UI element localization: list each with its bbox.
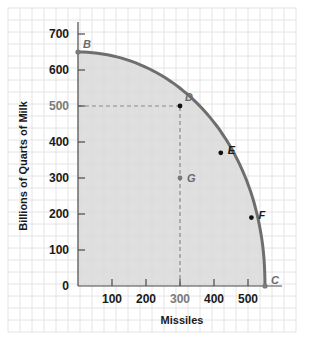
point-g-label: G bbox=[187, 172, 196, 184]
y-tick-label: 400 bbox=[49, 135, 69, 149]
point-b-label: B bbox=[83, 38, 91, 50]
point-c-label: C bbox=[271, 274, 280, 286]
feasible-region-fill bbox=[78, 52, 265, 286]
point-f-marker bbox=[249, 215, 254, 220]
x-tick-label: 500 bbox=[238, 292, 258, 306]
y-tick-label: 700 bbox=[49, 27, 69, 41]
point-f-label: F bbox=[258, 209, 265, 221]
x-tick-label: 300 bbox=[170, 292, 190, 306]
point-b-marker bbox=[75, 49, 80, 54]
y-tick-label: 500 bbox=[49, 99, 69, 113]
x-tick-label: 200 bbox=[136, 292, 156, 306]
y-axis-title: Billions of Quarts of Milk bbox=[17, 100, 29, 230]
y-tick-label: 0 bbox=[62, 279, 69, 293]
point-e-label: E bbox=[228, 144, 236, 156]
x-tick-label: 400 bbox=[204, 292, 224, 306]
x-tick-label: 100 bbox=[102, 292, 122, 306]
ppf-chart: 0100200300400500600700100200300400500 BD… bbox=[0, 0, 310, 345]
x-axis-title: Missiles bbox=[161, 314, 204, 326]
y-tick-label: 600 bbox=[49, 63, 69, 77]
point-c-marker bbox=[262, 283, 267, 288]
point-g-marker bbox=[178, 176, 183, 181]
point-d-label: D bbox=[185, 91, 193, 103]
point-e-marker bbox=[218, 150, 223, 155]
y-tick-label: 300 bbox=[49, 171, 69, 185]
y-tick-label: 200 bbox=[49, 207, 69, 221]
y-tick-label: 100 bbox=[49, 243, 69, 257]
point-d-marker bbox=[178, 104, 183, 109]
